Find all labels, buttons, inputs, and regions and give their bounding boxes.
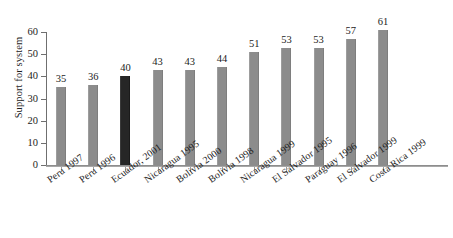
bar-value-label: 40 [112, 62, 138, 73]
y-axis-tick-label: 10 [14, 138, 38, 148]
y-axis-tick-label-text: 20 [16, 116, 38, 126]
y-axis-tick-label-text: 40 [16, 71, 38, 81]
y-axis-tick-label: 50 [14, 49, 38, 59]
bar-value-label: 53 [273, 34, 299, 45]
y-axis-tick-label: 20 [14, 116, 38, 126]
bar-value-label: 57 [338, 25, 364, 36]
y-axis-tick-label-text: 0 [16, 160, 38, 170]
y-axis-tick [41, 76, 46, 77]
y-axis-tick-label-text: 60 [16, 27, 38, 37]
y-axis-tick [41, 32, 46, 33]
bar-value-label: 43 [145, 56, 171, 67]
y-axis-tick-label-text: 30 [16, 94, 38, 104]
bar [120, 76, 130, 165]
bar-value-label: 36 [80, 71, 106, 82]
y-axis-tick [41, 54, 46, 55]
bar-value-label: 61 [370, 16, 396, 27]
y-axis-tick-label: 60 [14, 27, 38, 37]
bar-value-label: 44 [209, 53, 235, 64]
y-axis-tick-label: 40 [14, 71, 38, 81]
bar-value-label: 53 [306, 34, 332, 45]
y-axis-tick [41, 143, 46, 144]
bar-chart: Support for system 0102030405060 3536404… [0, 0, 453, 238]
y-axis-tick-label-text: 50 [16, 49, 38, 59]
y-axis-line [46, 32, 47, 166]
bar-value-label: 35 [48, 73, 74, 84]
y-axis-tick [41, 165, 46, 166]
bar [56, 87, 66, 165]
y-axis-tick-label: 30 [14, 94, 38, 104]
y-axis-tick [41, 99, 46, 100]
bar [88, 85, 98, 165]
bar-value-label: 51 [241, 38, 267, 49]
y-axis-tick-label: 0 [14, 160, 38, 170]
y-axis-tick [41, 121, 46, 122]
y-axis-tick-label-text: 10 [16, 138, 38, 148]
bar-value-label: 43 [177, 56, 203, 67]
